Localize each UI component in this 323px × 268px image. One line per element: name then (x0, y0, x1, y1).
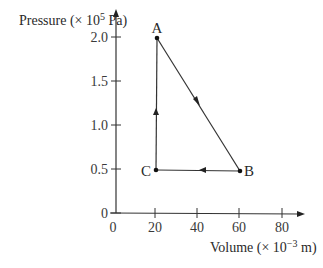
point-b-label: B (244, 163, 254, 179)
y-tick-label: 0.5 (91, 162, 109, 177)
arrow-c-to-a-icon (153, 108, 159, 115)
y-tick-label: 1.0 (91, 118, 109, 133)
cycle-path (156, 38, 240, 171)
point-c-label: C (141, 163, 151, 179)
point-a-dot (155, 36, 160, 41)
point-c-dot (154, 168, 159, 173)
x-tick-label: 60 (232, 220, 246, 235)
x-axis (110, 213, 300, 214)
x-axis-title: Volume (× 10−3 m) (210, 238, 317, 256)
arrow-b-to-c-icon (199, 167, 206, 173)
x-tick-label: 0 (110, 220, 117, 235)
y-axis-title: Pressure (× 105 Pa) (19, 11, 128, 29)
y-tick-label: 2.0 (91, 30, 109, 45)
point-b-dot (238, 169, 243, 174)
pv-diagram: 0 0.5 1.0 1.5 2.0 0 20 40 60 80 Pressure… (0, 0, 323, 268)
x-tick-label: 80 (275, 220, 289, 235)
path-c-to-a (156, 38, 157, 170)
x-tick-label: 40 (190, 220, 204, 235)
path-b-to-c (156, 170, 240, 171)
x-tick-label: 20 (148, 220, 162, 235)
x-axis-arrow-icon (297, 211, 305, 217)
point-a-label: A (152, 20, 163, 36)
y-tick-label: 0 (101, 206, 108, 221)
y-tick-label: 1.5 (91, 74, 109, 89)
